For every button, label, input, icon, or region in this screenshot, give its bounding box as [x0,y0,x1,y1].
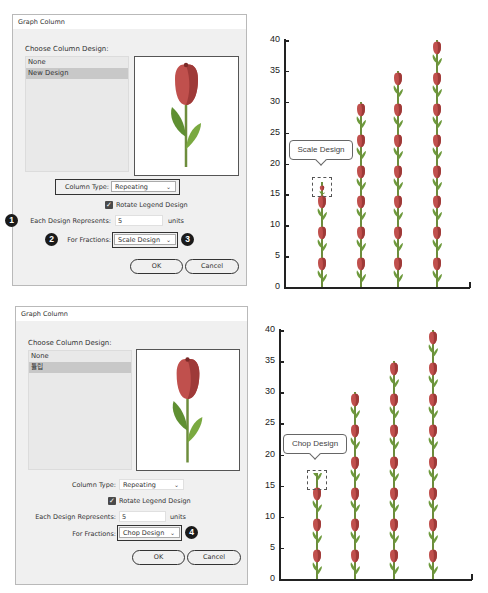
tulip-icon [426,486,440,517]
tulip-icon [310,548,324,579]
y-tick [279,392,284,394]
fraction-highlight-box [307,470,327,490]
tulip-icon [426,423,440,454]
y-tick-label: 0 [259,573,275,583]
tulip-icon [426,455,440,486]
y-tick [279,330,284,332]
tulip-column [348,392,362,579]
tulip-column [426,330,440,579]
y-tick-label: 40 [259,324,275,334]
y-tick [279,423,284,425]
tulip-icon [387,517,401,548]
tulip-icon [348,486,362,517]
y-tick-label: 15 [259,480,275,490]
tulip-icon [387,455,401,486]
y-tick-label: 25 [259,417,275,427]
y-tick [279,361,284,363]
tulip-icon [387,486,401,517]
tulip-icon [348,517,362,548]
tulip-icon [348,455,362,486]
y-tick-label: 30 [259,386,275,396]
pictograph-chart-chop: 0510152025303540 [0,0,488,593]
tulip-icon [348,392,362,423]
tulip-icon [426,392,440,423]
tulip-icon [310,486,324,517]
tulip-icon [387,361,401,392]
annotation-callout: Chop Design [283,434,347,454]
tulip-icon [387,548,401,579]
y-tick [279,486,284,488]
tulip-icon [426,517,440,548]
tulip-column [387,361,401,579]
tulip-icon [426,548,440,579]
tulip-icon [426,361,440,392]
x-axis [279,579,472,581]
tulip-icon [387,392,401,423]
y-tick-label: 10 [259,511,275,521]
tulip-icon [348,423,362,454]
y-tick-label: 5 [259,542,275,552]
y-tick [279,517,284,519]
tulip-icon [310,517,324,548]
tulip-icon [387,423,401,454]
y-tick-label: 20 [259,449,275,459]
y-tick-label: 35 [259,355,275,365]
y-tick [279,548,284,550]
y-tick [279,455,284,457]
tulip-icon [426,330,440,361]
tulip-icon [348,548,362,579]
y-tick [279,579,284,581]
x-axis-end-tick [471,574,473,580]
